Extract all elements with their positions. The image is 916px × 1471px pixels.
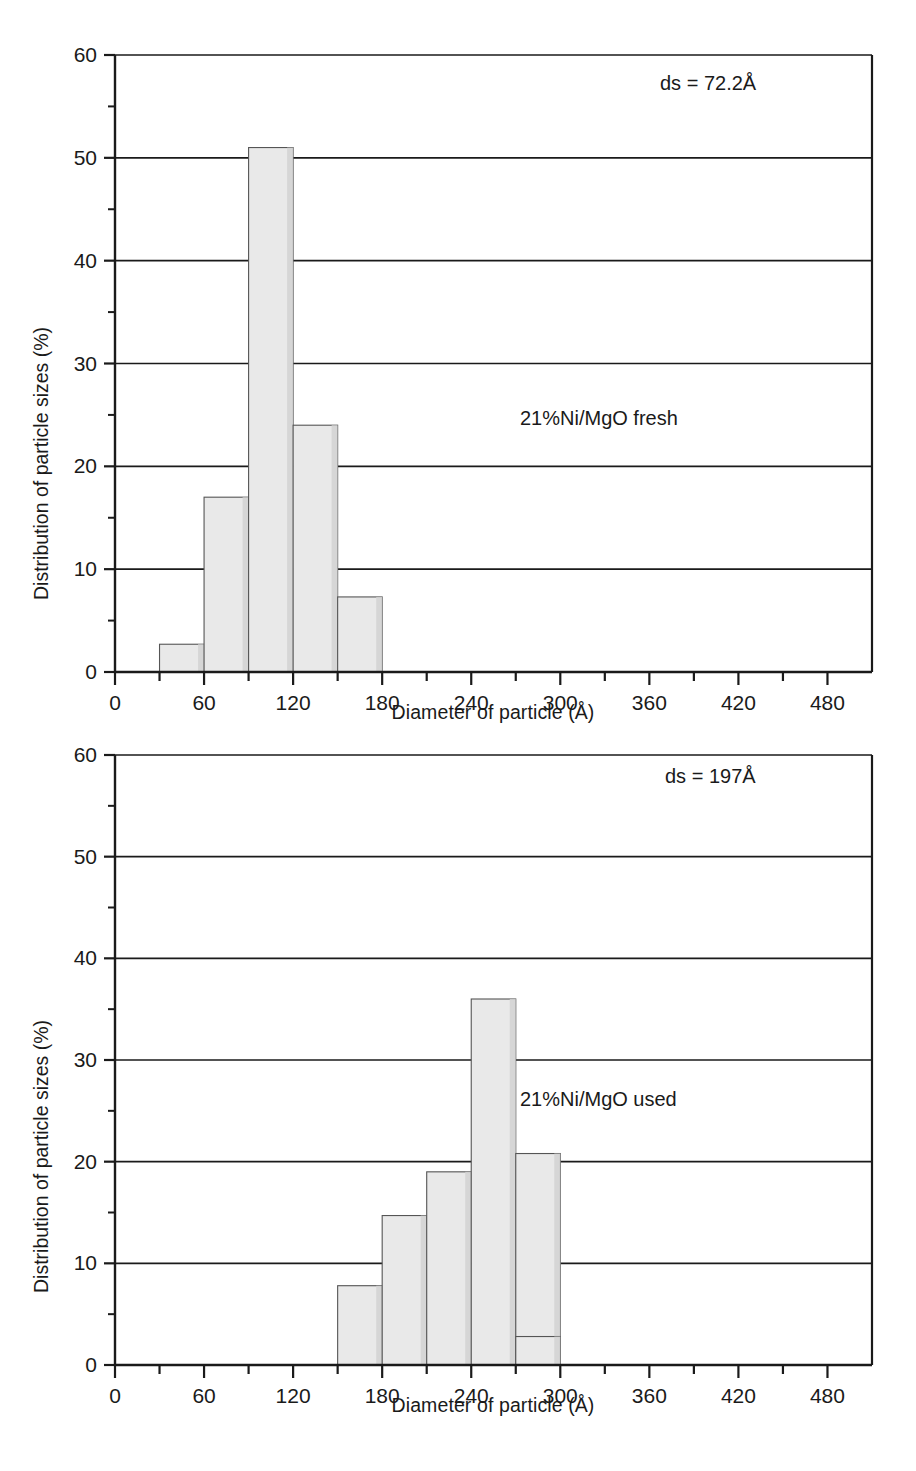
bar-shadow-strip	[376, 1286, 382, 1365]
y-tick-label: 30	[74, 1048, 97, 1071]
x-tick-label: 480	[810, 1384, 845, 1407]
y-tick-label: 20	[74, 454, 97, 477]
histogram-bar	[160, 644, 205, 672]
x-tick-label: 420	[721, 1384, 756, 1407]
x-tick-label: 0	[109, 1384, 121, 1407]
y-tick-label: 60	[74, 43, 97, 66]
y-tick-label: 50	[74, 146, 97, 169]
y-tick-label: 30	[74, 352, 97, 375]
chart-panel-fresh: Distribution of particle sizes (%) 01020…	[0, 0, 916, 735]
y-tick-label: 10	[74, 557, 97, 580]
cut-off-caption-strip	[0, 1457, 916, 1471]
histogram-bar	[204, 497, 249, 672]
ds-annotation-top: ds = 72.2Å	[660, 72, 756, 95]
y-tick-label: 20	[74, 1150, 97, 1173]
bar-shadow-strip	[465, 1172, 471, 1365]
y-tick-label: 0	[85, 660, 97, 683]
ds-annotation-bottom: ds = 197Å	[665, 765, 756, 788]
y-tick-label: 10	[74, 1251, 97, 1274]
histogram-bar	[249, 148, 294, 672]
histogram-bar	[516, 1337, 561, 1365]
bar-shadow-strip	[198, 644, 204, 672]
x-axis-title-bottom: Diameter of particle (Å)	[293, 1394, 693, 1417]
y-tick-label: 60	[74, 743, 97, 766]
bar-shadow-strip	[421, 1216, 427, 1365]
histogram-bar	[471, 999, 516, 1365]
figure-panel-container: Distribution of particle sizes (%) 01020…	[0, 0, 916, 1471]
y-tick-label: 50	[74, 845, 97, 868]
bar-shadow-strip	[510, 999, 516, 1365]
plot-svg-top: 0102030405060060120180240300360420480	[0, 0, 916, 735]
bar-shadow-strip	[376, 597, 382, 672]
plot-svg-bottom: 0102030405060060120180240300360420480	[0, 700, 916, 1471]
histogram-bar	[516, 1154, 561, 1365]
bar-shadow-strip	[243, 497, 249, 672]
histogram-bar	[293, 425, 338, 672]
histogram-bar	[382, 1216, 427, 1365]
histogram-bar	[338, 1286, 383, 1365]
histogram-bar	[338, 597, 383, 672]
y-tick-label: 40	[74, 249, 97, 272]
histogram-bar	[427, 1172, 472, 1365]
bar-shadow-strip	[332, 425, 338, 672]
chart-panel-used: Distribution of particle sizes (%) 01020…	[0, 700, 916, 1471]
bar-shadow-strip	[554, 1337, 560, 1365]
bar-shadow-strip	[287, 148, 293, 672]
y-tick-label: 0	[85, 1353, 97, 1376]
sample-annotation-top: 21%Ni/MgO fresh	[520, 407, 678, 430]
bar-shadow-strip	[554, 1154, 560, 1365]
sample-annotation-bottom: 21%Ni/MgO used	[520, 1088, 677, 1111]
x-tick-label: 60	[192, 1384, 215, 1407]
y-tick-label: 40	[74, 946, 97, 969]
